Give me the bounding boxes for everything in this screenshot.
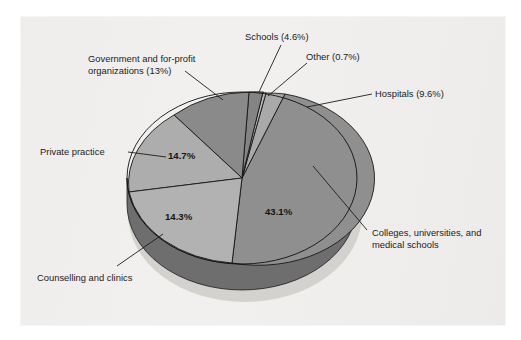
value-private-practice: 14.7% [168,150,196,161]
label-private-practice: Private practice [40,146,105,157]
figure-page: Schools (4.6%) Other (0.7%) Hospitals (9… [0,0,521,340]
label-colleges-line1: Colleges, universities, and [372,227,481,238]
value-colleges: 43.1% [265,206,293,217]
label-colleges-line2: medical schools [372,239,439,250]
leader-hospitals [307,94,372,107]
pie-chart: Schools (4.6%) Other (0.7%) Hospitals (9… [0,0,521,340]
label-government-line2: organizations (13%) [88,65,171,76]
label-government-line1: Government and for-profit [88,53,196,64]
label-schools: Schools (4.6%) [245,31,309,42]
leader-other [268,63,307,96]
label-counselling: Counselling and clinics [37,272,133,283]
leader-schools [259,45,281,92]
label-other: Other (0.7%) [306,51,360,62]
leader-government [185,71,223,100]
label-hospitals: Hospitals (9.6%) [375,88,444,99]
value-counselling: 14.3% [165,211,193,222]
